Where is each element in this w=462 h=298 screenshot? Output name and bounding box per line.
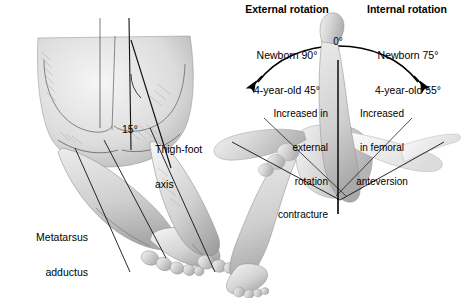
external-rotation-heading: External rotation <box>226 4 348 16</box>
internal-newborn-value: Newborn 75° <box>357 50 459 62</box>
internal-annotation-line-2: in femoral <box>340 142 424 153</box>
external-annotation-line-4: contracture <box>240 209 328 220</box>
internal-annotation-line-3: anteversion <box>340 176 424 187</box>
external-rotation-contracture-annotation: Increased in external rotation contractu… <box>240 86 328 231</box>
metatarsus-adductus-label: Metatarsus adductus <box>0 208 88 290</box>
thigh-foot-axis-label: Thigh-foot axis <box>155 120 202 202</box>
metatarsus-adductus-line-2: adductus <box>0 267 88 279</box>
thigh-foot-angle-label: 15° <box>122 124 138 136</box>
external-annotation-line-1: Increased in <box>240 108 328 119</box>
metatarsus-adductus-line-1: Metatarsus <box>0 232 88 244</box>
external-annotation-line-3: rotation <box>240 176 328 187</box>
external-annotation-line-2: external <box>240 142 328 153</box>
thigh-foot-axis-line-2: axis <box>155 179 202 191</box>
thigh-foot-axis-line-1: Thigh-foot <box>155 144 202 156</box>
zero-degree-label: 0° <box>320 36 356 47</box>
femoral-anteversion-annotation: Increased in femoral anteversion <box>340 86 424 198</box>
external-newborn-value: Newborn 90° <box>228 50 346 62</box>
internal-rotation-heading: Internal rotation <box>355 4 459 16</box>
internal-annotation-line-1: Increased <box>340 108 424 119</box>
